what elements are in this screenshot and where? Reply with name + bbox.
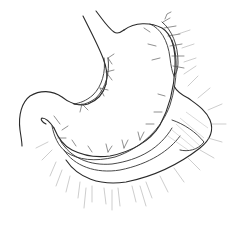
stomach-drawing	[0, 0, 238, 225]
lesser-curvature-vessels	[74, 58, 109, 105]
vessel-branches	[54, 28, 165, 152]
stomach-illustration: stomach with gastric blood vessels and o…	[0, 0, 238, 225]
greater-curvature-vessels	[52, 40, 180, 171]
radiating-fringe	[36, 30, 226, 210]
short-gastric-vessels	[150, 12, 184, 76]
